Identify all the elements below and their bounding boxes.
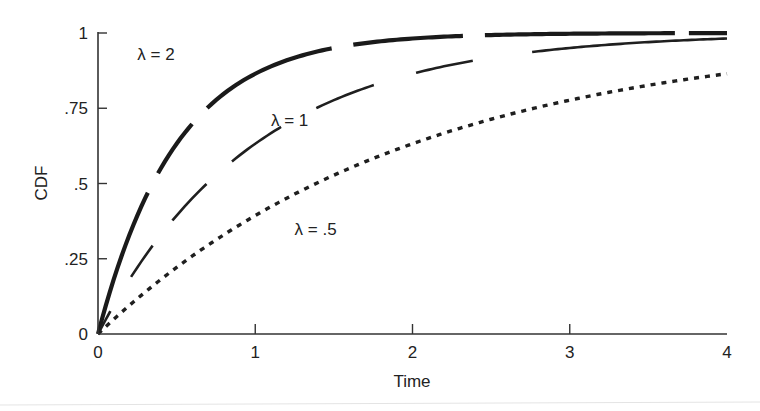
y-tick-label: 1 [79, 24, 88, 43]
curve-label: λ = .5 [295, 220, 337, 239]
cdf-chart: 0.25.5.751 01234 Time CDF λ = 2λ = 1λ = … [0, 0, 760, 411]
series-line-1 [98, 33, 727, 334]
x-tick-label: 2 [408, 343, 417, 362]
y-tick-label: 0 [79, 325, 88, 344]
x-ticks-group: 01234 [93, 324, 731, 362]
page-edge-rule [0, 402, 760, 405]
y-ticks-group: 0.25.5.751 [64, 24, 107, 344]
series-line-3 [98, 74, 727, 334]
x-tick-label: 0 [93, 343, 102, 362]
annotations-group: λ = 2λ = 1λ = .5 [137, 45, 336, 239]
y-axis-title: CDF [32, 166, 51, 201]
curve-label: λ = 1 [271, 111, 308, 130]
x-axis-title: Time [393, 372, 430, 391]
y-tick-label: .75 [64, 99, 88, 118]
x-tick-label: 4 [722, 343, 731, 362]
curves-group [98, 33, 727, 334]
curve-label: λ = 2 [137, 45, 174, 64]
y-tick-label: .5 [74, 175, 88, 194]
y-tick-label: .25 [64, 250, 88, 269]
series-line-2 [98, 39, 727, 334]
x-tick-label: 1 [251, 343, 260, 362]
x-tick-label: 3 [565, 343, 574, 362]
